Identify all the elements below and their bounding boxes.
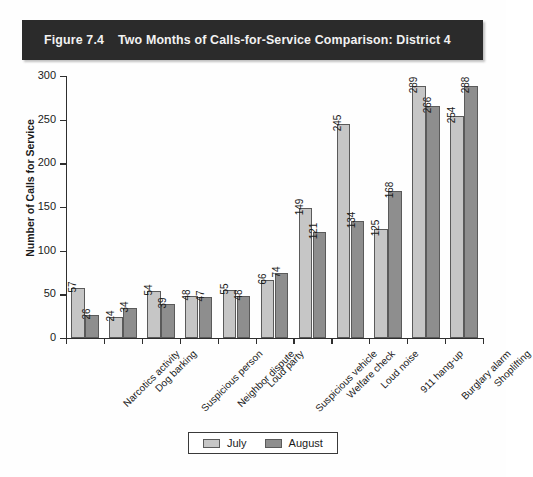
- chart-plot-area: Number of Calls for Service 050100150200…: [0, 62, 506, 362]
- bar-value-label: 48: [182, 290, 192, 301]
- y-axis-line: [66, 76, 67, 338]
- bar-august: 26: [85, 315, 99, 338]
- bar-august: 168: [388, 191, 402, 338]
- chart-legend: July August: [188, 432, 338, 454]
- legend-item-july[interactable]: July: [203, 437, 247, 449]
- bar-august: 34: [123, 308, 137, 338]
- bar-value-label: 125: [371, 220, 381, 237]
- chart-axes: 050100150200250300 572624345439484755486…: [66, 76, 483, 338]
- bar-august: 39: [161, 304, 175, 338]
- bar-value-label: 39: [158, 297, 168, 308]
- bar-value-label: 66: [258, 274, 268, 285]
- y-axis-tick-label: 250: [38, 113, 56, 125]
- bar-value-label: 26: [82, 309, 92, 320]
- y-axis-tick-label: 150: [38, 200, 56, 212]
- y-axis-tick: 150: [60, 207, 66, 208]
- bar-august: 74: [275, 273, 289, 338]
- y-axis-tick-label: 100: [38, 244, 56, 256]
- bar-august: 121: [313, 232, 327, 338]
- bar-value-label: 245: [333, 115, 343, 132]
- x-axis-tick: [293, 338, 294, 344]
- bar-value-label: 55: [220, 283, 230, 294]
- bar-value-label: 54: [144, 284, 154, 295]
- x-axis-tick: [256, 338, 257, 344]
- x-axis-tick: [218, 338, 219, 344]
- bar-value-label: 74: [272, 267, 282, 278]
- bar-value-label: 47: [196, 290, 206, 301]
- bar-value-label: 121: [309, 223, 319, 240]
- x-axis-tick: [483, 338, 484, 344]
- bar-value-label: 288: [461, 77, 471, 94]
- y-axis-label: Number of Calls for Service: [24, 88, 36, 288]
- bar-august: 288: [464, 86, 478, 338]
- x-axis-category-label: Neighbor dispute: [235, 348, 296, 409]
- figure-title-text: Two Months of Calls-for-Service Comparis…: [118, 33, 451, 47]
- bar-july: 24: [109, 317, 123, 338]
- x-axis-line: [66, 338, 483, 339]
- bar-value-label: 254: [447, 107, 457, 124]
- bar-value-label: 168: [385, 182, 395, 199]
- x-axis-tick: [445, 338, 446, 344]
- bar-value-label: 24: [106, 310, 116, 321]
- x-axis-tick: [142, 338, 143, 344]
- bar-august: 266: [426, 106, 440, 338]
- bar-july: 254: [450, 116, 464, 338]
- bar-july: 48: [185, 296, 199, 338]
- y-axis-tick: 100: [60, 251, 66, 252]
- bar-value-label: 134: [347, 212, 357, 229]
- y-axis-tick: 250: [60, 120, 66, 121]
- x-axis-category-label: 911 hang-up: [418, 348, 465, 395]
- x-axis-tick: [66, 338, 67, 344]
- x-axis-tick: [331, 338, 332, 344]
- bar-july: 245: [337, 124, 351, 338]
- legend-swatch-july-icon: [203, 439, 220, 448]
- bar-july: 66: [261, 280, 275, 338]
- bar-value-label: 266: [423, 96, 433, 113]
- bar-august: 47: [199, 297, 213, 338]
- y-axis-tick: 200: [60, 163, 66, 164]
- legend-label-july: July: [227, 437, 247, 449]
- y-axis-tick-label: 0: [50, 331, 56, 343]
- y-axis-tick-label: 300: [38, 69, 56, 81]
- figure-title: Figure 7.4Two Months of Calls-for-Servic…: [44, 33, 451, 47]
- bar-august: 134: [351, 221, 365, 338]
- figure-number: Figure 7.4: [44, 33, 104, 47]
- y-axis-tick: 300: [60, 76, 66, 77]
- bar-july: 289: [412, 86, 426, 338]
- y-axis-tick-label: 200: [38, 156, 56, 168]
- y-axis-tick: 50: [60, 294, 66, 295]
- bar-value-label: 48: [234, 290, 244, 301]
- x-axis-tick: [369, 338, 370, 344]
- legend-swatch-august-icon: [265, 439, 282, 448]
- x-axis-tick: [180, 338, 181, 344]
- bar-august: 48: [237, 296, 251, 338]
- bar-value-label: 57: [68, 282, 78, 293]
- x-axis-tick: [104, 338, 105, 344]
- bar-july: 125: [374, 229, 388, 338]
- legend-label-august: August: [289, 437, 323, 449]
- y-axis-tick-label: 50: [44, 287, 56, 299]
- bar-value-label: 289: [409, 76, 419, 93]
- x-axis-tick: [407, 338, 408, 344]
- bar-value-label: 34: [120, 302, 130, 313]
- bar-value-label: 149: [295, 199, 305, 216]
- legend-item-august[interactable]: August: [265, 437, 323, 449]
- figure-title-band: Figure 7.4Two Months of Calls-for-Servic…: [22, 20, 483, 60]
